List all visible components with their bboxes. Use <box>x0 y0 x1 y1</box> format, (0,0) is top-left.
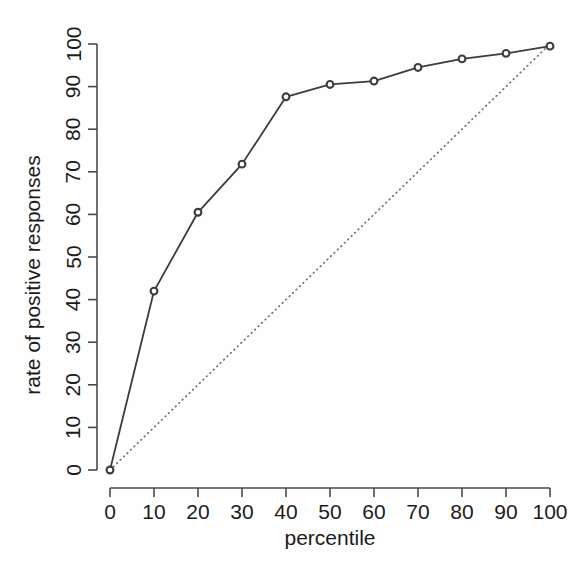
y-axis: 0102030405060708090100 <box>62 26 98 475</box>
data-point-marker <box>107 467 114 474</box>
data-point-marker <box>327 81 334 88</box>
chart-canvas: 0102030405060708090100 01020304050607080… <box>0 0 588 578</box>
y-tick-label: 100 <box>62 26 85 61</box>
y-tick-label: 0 <box>62 464 85 476</box>
y-tick-label: 90 <box>62 75 85 98</box>
data-point-marker <box>283 93 290 100</box>
x-tick-label: 20 <box>186 500 209 523</box>
y-axis-ticks: 0102030405060708090100 <box>62 26 98 475</box>
x-axis-title: percentile <box>284 526 375 549</box>
y-tick-label: 50 <box>62 245 85 268</box>
data-point-markers <box>107 43 554 474</box>
y-tick-label: 30 <box>62 331 85 354</box>
x-axis: 0102030405060708090100 <box>104 488 567 523</box>
data-point-marker <box>371 78 378 85</box>
y-axis-title: rate of positive responses <box>21 155 44 394</box>
y-tick-label: 60 <box>62 203 85 226</box>
y-tick-label: 10 <box>62 416 85 439</box>
x-tick-label: 10 <box>142 500 165 523</box>
data-point-marker <box>459 56 466 63</box>
y-tick-label: 20 <box>62 373 85 396</box>
data-point-marker <box>547 43 554 50</box>
reference-diagonal-line <box>110 44 550 470</box>
x-axis-ticks: 0102030405060708090100 <box>104 488 567 523</box>
x-tick-label: 40 <box>274 500 297 523</box>
y-tick-label: 80 <box>62 118 85 141</box>
y-tick-label: 70 <box>62 160 85 183</box>
x-tick-label: 60 <box>362 500 385 523</box>
data-point-marker <box>239 161 246 168</box>
data-point-marker <box>503 50 510 57</box>
data-point-marker <box>195 209 202 216</box>
x-tick-label: 100 <box>532 500 567 523</box>
x-tick-label: 50 <box>318 500 341 523</box>
x-tick-label: 70 <box>406 500 429 523</box>
x-tick-label: 0 <box>104 500 116 523</box>
data-point-marker <box>151 288 158 295</box>
x-tick-label: 80 <box>450 500 473 523</box>
data-point-marker <box>415 64 422 71</box>
x-tick-label: 90 <box>494 500 517 523</box>
y-tick-label: 40 <box>62 288 85 311</box>
x-tick-label: 30 <box>230 500 253 523</box>
chart-figure: 0102030405060708090100 01020304050607080… <box>0 0 588 578</box>
